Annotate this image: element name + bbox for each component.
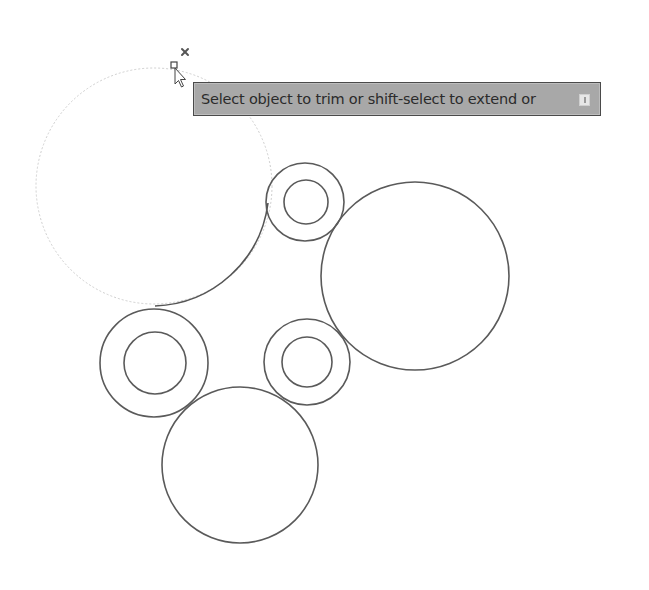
right-large-circle[interactable] (321, 182, 509, 370)
left-ring-outer-circle[interactable] (100, 309, 208, 417)
top-ring-inner-circle[interactable] (284, 180, 328, 224)
mid-ring-inner-circle[interactable] (282, 337, 332, 387)
left-ring-inner-circle[interactable] (124, 332, 186, 394)
mid-ring-outer-circle[interactable] (264, 319, 350, 405)
pickbox-cursor-icon (171, 49, 188, 87)
x-mark-icon (182, 49, 188, 55)
dropdown-options-icon[interactable] (579, 94, 590, 106)
top-ring-outer-circle[interactable] (266, 163, 344, 241)
pickbox-icon (171, 62, 177, 68)
tooltip-prompt-text: Select object to trim or shift-select to… (201, 91, 536, 107)
bottom-large-circle[interactable] (162, 387, 318, 543)
command-prompt-tooltip: Select object to trim or shift-select to… (193, 82, 601, 116)
arrow-pointer-icon (175, 68, 186, 87)
trim-arc[interactable] (155, 203, 268, 306)
